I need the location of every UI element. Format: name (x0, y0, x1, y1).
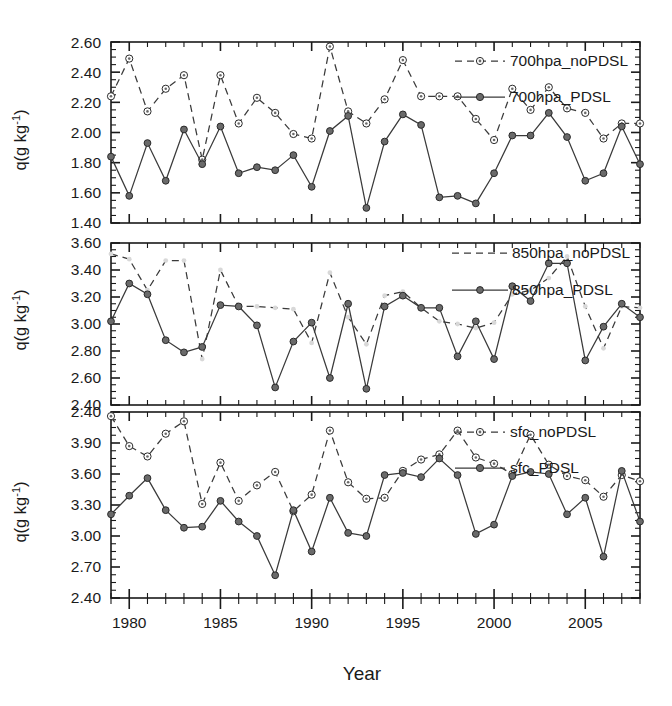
legend-label-noPDSL: 850hpa_noPDSL (512, 244, 630, 261)
data-point (181, 349, 188, 356)
data-point-center (329, 45, 332, 48)
ytick-label: 2.70 (71, 558, 102, 575)
ytick-label: 3.00 (71, 527, 102, 544)
data-point (546, 276, 551, 281)
data-point-center (164, 87, 167, 90)
data-point-center (365, 122, 368, 125)
ytick-label: 3.30 (71, 496, 102, 513)
ytick-label: 2.40 (71, 589, 102, 606)
data-point (601, 346, 606, 351)
legend-marker-open-dot (479, 60, 482, 63)
data-point (436, 455, 443, 462)
data-point (436, 304, 443, 311)
ytick-label: 2.20 (71, 94, 102, 111)
data-point (182, 258, 187, 263)
data-point (637, 314, 644, 321)
ytick-label: 3.60 (71, 465, 102, 482)
data-point (399, 111, 406, 118)
data-point-center (566, 107, 569, 110)
xtick-label: 1980 (112, 614, 147, 631)
ytick-label: 3.40 (71, 261, 102, 278)
data-point (199, 161, 206, 168)
data-point-center (584, 479, 587, 482)
data-point (381, 303, 388, 310)
data-point-center (493, 139, 496, 142)
data-point (600, 170, 607, 177)
data-point (308, 183, 315, 190)
data-point (455, 322, 460, 327)
data-point-center (383, 496, 386, 499)
legend-label-PDSL: sfc_PDSL (510, 459, 579, 476)
data-point-center (128, 445, 131, 448)
data-point (308, 548, 315, 555)
data-point (436, 194, 443, 201)
data-point (618, 123, 625, 130)
legend-marker-open-dot (479, 431, 482, 434)
data-point (272, 167, 279, 174)
ytick-label: 2.40 (71, 403, 102, 420)
data-point (272, 572, 279, 579)
data-point-center (584, 112, 587, 115)
data-point-center (383, 98, 386, 101)
data-point (582, 357, 589, 364)
data-point (162, 507, 169, 514)
data-point (144, 140, 151, 147)
data-point (162, 177, 169, 184)
xtick-label: 1990 (294, 614, 329, 631)
data-point-center (237, 122, 240, 125)
data-point (309, 341, 314, 346)
data-point (345, 530, 352, 537)
legend-label-noPDSL: 700hpa_noPDSL (510, 52, 628, 69)
xtick-label: 1985 (203, 614, 237, 631)
data-point-center (475, 456, 478, 459)
ytick-label: 2.80 (71, 342, 102, 359)
legend-label-PDSL: 700hpa_PDSL (510, 88, 611, 105)
data-point (235, 170, 242, 177)
data-point-center (420, 458, 423, 461)
data-point (637, 161, 644, 168)
data-point (109, 251, 114, 256)
data-point (381, 138, 388, 145)
data-point (126, 492, 133, 499)
data-point (290, 338, 297, 345)
data-point (381, 472, 388, 479)
data-point-center (292, 133, 295, 136)
data-point (272, 384, 279, 391)
data-point-center (128, 57, 131, 60)
ytick-label: 2.40 (71, 64, 102, 81)
data-point (199, 344, 206, 351)
data-point (472, 318, 479, 325)
data-point (418, 122, 425, 129)
data-point-center (475, 118, 478, 121)
data-point (491, 356, 498, 363)
data-point-center (438, 95, 441, 98)
data-point (346, 315, 351, 320)
ytick-label: 1.60 (71, 184, 102, 201)
data-point (163, 258, 168, 263)
data-point-center (347, 481, 350, 484)
data-point-center (183, 74, 186, 77)
data-point (473, 326, 478, 331)
data-point (127, 257, 132, 262)
data-point (472, 531, 479, 538)
ytick-label: 2.60 (71, 34, 102, 51)
figure-container: q(g kg-1) 1.40 1.60 1.80 2.00 2.20 2.40 … (0, 0, 672, 706)
data-point-center (164, 432, 167, 435)
data-point (218, 268, 223, 273)
xtick-label: 2000 (477, 614, 512, 631)
data-point-center (639, 122, 642, 125)
ytick-label: 3.00 (71, 315, 102, 332)
data-point (582, 494, 589, 501)
data-point (144, 475, 151, 482)
data-point (600, 553, 607, 560)
ytick-label: 3.60 (71, 234, 102, 251)
xtick-label: 1995 (386, 614, 420, 631)
data-point (545, 109, 552, 116)
data-point (217, 497, 224, 504)
legend-marker-filled-circle (477, 287, 484, 294)
data-point (327, 270, 332, 275)
data-point-center (310, 493, 313, 496)
data-point (273, 305, 278, 310)
data-point (308, 319, 315, 326)
data-point (638, 305, 643, 310)
